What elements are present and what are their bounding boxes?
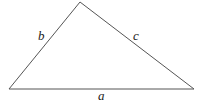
- label-a: a: [98, 88, 105, 102]
- triangle-diagram: b c a: [0, 0, 197, 102]
- label-b: b: [38, 28, 45, 43]
- side-c: [80, 2, 194, 89]
- label-c: c: [133, 28, 139, 43]
- side-b: [9, 2, 80, 89]
